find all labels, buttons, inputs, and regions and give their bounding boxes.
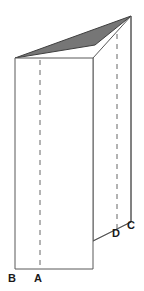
front-rectangle-shape bbox=[15, 58, 93, 269]
back-panel-shape bbox=[93, 16, 131, 241]
vertex-label-b: B bbox=[8, 273, 16, 284]
folded-sheet-drawing bbox=[0, 0, 144, 291]
geometry-figure: B A D C bbox=[0, 0, 144, 291]
vertex-label-d: D bbox=[112, 228, 120, 239]
vertex-label-c: C bbox=[127, 220, 135, 231]
vertex-label-a: A bbox=[34, 273, 42, 284]
